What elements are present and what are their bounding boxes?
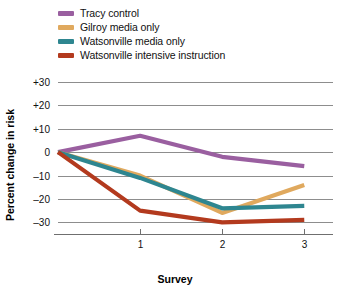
legend-label: Watsonville intensive instruction [80, 49, 225, 61]
y-tick-label: +10 [33, 124, 50, 135]
legend-swatch-watsonville-intensive-instruction [58, 53, 74, 58]
legend-label: Gilroy media only [80, 21, 159, 33]
y-tick-label: +20 [33, 100, 50, 111]
y-axis-title: Percent change in risk [4, 109, 16, 221]
y-tick-label: 0 [44, 147, 50, 158]
chart-figure: Tracy control Gilroy media only Watsonvi… [0, 0, 339, 291]
x-axis [54, 229, 333, 235]
legend-item: Watsonville media only [58, 34, 333, 48]
legend-item: Gilroy media only [58, 20, 333, 34]
legend-item: Watsonville intensive instruction [58, 48, 333, 62]
y-axis-tick-labels: +30+20+100–10–20–30 [33, 77, 50, 228]
legend-swatch-watsonville-media-only [58, 39, 74, 44]
x-tick-label: 1 [138, 239, 144, 250]
y-tick-label: +30 [33, 77, 50, 88]
x-axis-tick-labels: 123 [138, 239, 308, 250]
x-axis-title: Survey [157, 273, 192, 285]
y-tick-label: –20 [33, 194, 50, 205]
chart-legend: Tracy control Gilroy media only Watsonvi… [58, 6, 333, 62]
line-chart: +30+20+100–10–20–30 123 Survey Percent c… [0, 70, 339, 291]
plot-area: +30+20+100–10–20–30 123 Survey Percent c… [0, 70, 339, 291]
legend-item: Tracy control [58, 6, 333, 20]
x-tick-label: 3 [302, 239, 308, 250]
y-tick-label: –10 [33, 171, 50, 182]
x-tick-label: 2 [220, 239, 226, 250]
legend-swatch-gilroy-media-only [58, 25, 74, 30]
data-series-group [58, 136, 304, 223]
legend-label: Tracy control [80, 7, 139, 19]
legend-label: Watsonville media only [80, 35, 185, 47]
y-tick-label: –30 [33, 217, 50, 228]
legend-swatch-tracy-control [58, 11, 74, 16]
